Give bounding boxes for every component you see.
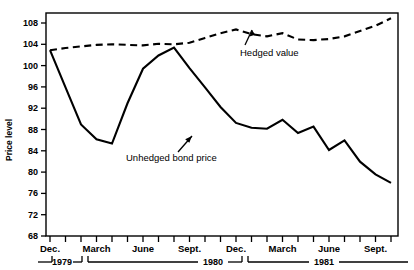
chart-container: 68 72 76 80 84 88 92 96 100 104 108 Pric… xyxy=(0,0,414,270)
year-span-brackets: 1979 1980 1981 xyxy=(38,256,408,267)
x-axis-tick-labels: Dec. March June Sept. Dec. March June Se… xyxy=(40,243,387,254)
y-tick-label: 72 xyxy=(28,210,38,220)
y-tick-label: 100 xyxy=(23,61,38,71)
year-label-1980: 1980 xyxy=(203,257,223,267)
y-axis-tick-labels: 68 72 76 80 84 88 92 96 100 104 108 xyxy=(23,18,38,241)
y-tick-label: 80 xyxy=(28,167,38,177)
x-tick-label: Sept. xyxy=(178,243,201,254)
price-level-chart: 68 72 76 80 84 88 92 96 100 104 108 Pric… xyxy=(0,0,414,270)
y-axis-title: Price level xyxy=(4,119,14,161)
y-tick-label: 92 xyxy=(28,103,38,113)
x-tick-label: Dec. xyxy=(226,243,246,254)
y-tick-label: 96 xyxy=(28,82,38,92)
unhedged-bond-price-annotation-label: Unhedged bond price xyxy=(126,152,217,163)
plot-frame xyxy=(46,13,398,236)
x-tick-label: March xyxy=(269,243,297,254)
y-tick-label: 68 xyxy=(28,231,38,241)
year-label-1981: 1981 xyxy=(314,257,334,267)
year-label-1979: 1979 xyxy=(52,257,72,267)
x-tick-label: June xyxy=(318,243,340,254)
y-tick-label: 84 xyxy=(28,146,38,156)
x-tick-label: March xyxy=(83,243,111,254)
hedged-value-annotation-label: Hedged value xyxy=(240,47,299,58)
y-tick-label: 76 xyxy=(28,188,38,198)
x-tick-label: Sept. xyxy=(364,243,387,254)
y-tick-label: 88 xyxy=(28,125,38,135)
y-axis-ticks xyxy=(41,23,46,236)
y-tick-label: 104 xyxy=(23,39,38,49)
y-tick-label: 108 xyxy=(23,18,38,28)
x-tick-label: June xyxy=(132,243,154,254)
x-tick-label: Dec. xyxy=(40,243,60,254)
x-axis-ticks xyxy=(50,236,391,242)
